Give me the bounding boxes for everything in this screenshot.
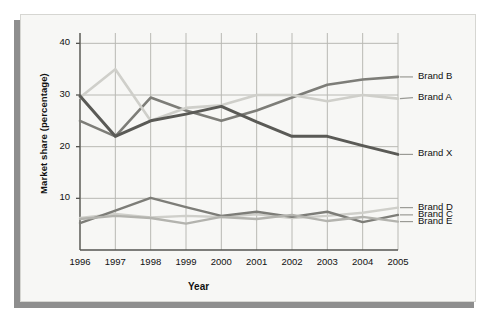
legend-leader-lines: [400, 77, 413, 222]
legend-label-brand-b: Brand B: [418, 70, 452, 81]
x-tick-label: 2002: [272, 256, 312, 267]
series-line-brand-x: [80, 96, 398, 154]
x-tick-label: 2000: [201, 256, 241, 267]
x-axis-title: Year: [188, 281, 209, 292]
y-axis-title: Market share (percentage): [38, 44, 49, 224]
x-tick-label: 1999: [166, 256, 206, 267]
legend-leader-brand-a: [400, 98, 413, 99]
x-tick-label: 2005: [378, 256, 418, 267]
x-tick-label: 1996: [60, 256, 100, 267]
x-tick-label: 2003: [307, 256, 347, 267]
x-tick-label: 1998: [131, 256, 171, 267]
x-tick-label: 1997: [95, 256, 135, 267]
legend-label-brand-x: Brand X: [418, 147, 452, 158]
legend-label-brand-e: Brand E: [418, 215, 452, 226]
legend-label-brand-a: Brand A: [418, 91, 452, 102]
chart-canvas: [0, 0, 494, 325]
x-tick-label: 2001: [237, 256, 277, 267]
x-tick-label: 2004: [343, 256, 383, 267]
chart-figure: 10203040 1996199719981999200020012002200…: [0, 0, 494, 325]
